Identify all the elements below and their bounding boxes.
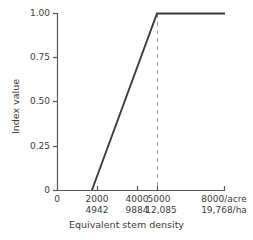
x-tick-label-4942: 4942	[86, 205, 109, 215]
x-tick-label-2000: 2000	[86, 194, 109, 204]
x-tick-label-0: 0	[54, 194, 60, 204]
x-tick-label-19768-ha: 19,768/ha	[201, 205, 247, 215]
x-tick-label-4000: 4000	[126, 194, 149, 204]
plot-canvas	[0, 0, 253, 240]
y-axis-title: Index value	[10, 62, 21, 152]
x-tick-label-8000-acre: 8000/acre	[201, 194, 246, 204]
y-tick-label-1.00: 1.00	[14, 8, 50, 18]
x-tick-label-12085: 12,085	[145, 205, 177, 215]
y-tick-label-0.75: 0.75	[14, 52, 50, 62]
y-axis-ticks	[53, 14, 58, 191]
y-tick-label-0: 0	[14, 185, 50, 195]
x-tick-label-5000: 5000	[148, 194, 171, 204]
chart-figure: 1.00 0.75 0.50 0.25 0 0 2000 4000 5000 8…	[0, 0, 253, 240]
x-axis-title: Equivalent stem density	[0, 219, 253, 230]
index-curve	[92, 14, 225, 191]
x-axis-ticks	[98, 186, 225, 191]
